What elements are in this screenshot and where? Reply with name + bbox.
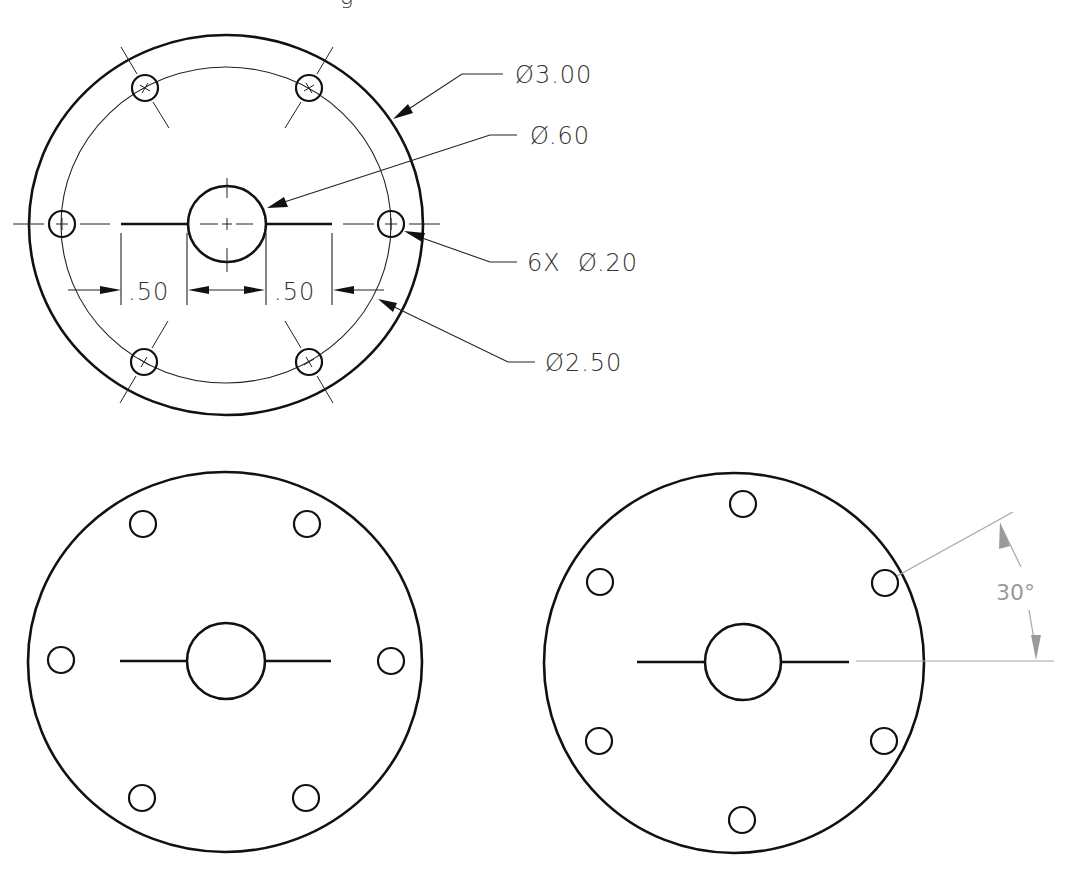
bolt-hole <box>586 728 612 754</box>
bolt-hole <box>129 785 155 811</box>
leader-outer-diameter <box>393 74 503 119</box>
outer-diameter-label: Ø3.00 <box>515 61 592 89</box>
top-view: .50 .50 Ø3.00 Ø.60 6X Ø.20 Ø2.50 <box>13 35 638 415</box>
center-hole <box>705 624 781 700</box>
bolt-hole <box>294 511 320 537</box>
drawing-canvas: g <box>0 0 1075 877</box>
center-hole-diameter-label: Ø.60 <box>530 122 590 150</box>
bolt-hole <box>729 807 755 833</box>
slot-right-dimension: .50 <box>274 278 315 306</box>
bolt-hole <box>121 47 169 128</box>
bolt-hole <box>587 569 613 595</box>
outer-circle <box>28 472 422 852</box>
bolt-hole <box>378 648 404 674</box>
slot-left-dimension: .50 <box>128 278 169 306</box>
bolt-holes-label: 6X Ø.20 <box>527 249 638 277</box>
bolt-hole <box>130 511 156 537</box>
center-hole-centermark <box>222 178 232 272</box>
slot-dimension-arrows <box>68 286 384 294</box>
bolt-hole <box>285 321 333 403</box>
bolt-hole <box>730 491 756 517</box>
bolt-hole <box>293 785 319 811</box>
title-fragment: g <box>340 0 354 9</box>
outer-circle <box>544 473 924 853</box>
bolt-circle <box>61 67 391 383</box>
bolt-hole <box>872 570 898 596</box>
center-hole <box>187 623 265 699</box>
bottom-left-view <box>28 472 422 852</box>
bottom-right-view: 30° <box>544 473 1054 853</box>
outer-circle <box>29 35 423 415</box>
bolt-hole <box>871 728 897 754</box>
bolt-circle-diameter-label: Ø2.50 <box>545 349 622 377</box>
bolt-hole <box>120 321 168 403</box>
bolt-hole <box>49 211 75 237</box>
bolt-hole <box>285 47 333 128</box>
bolt-hole <box>48 647 74 673</box>
leader-center-hole <box>267 135 517 208</box>
angle-label: 30° <box>996 580 1035 605</box>
